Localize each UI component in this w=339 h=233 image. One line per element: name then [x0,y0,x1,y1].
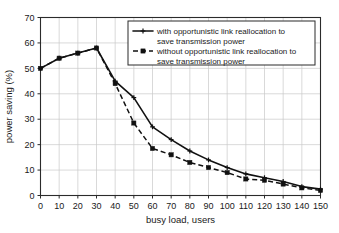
x-tick-label: 140 [294,201,309,211]
y-tick-label: 60 [24,38,34,48]
x-axis-title: busy load, users [146,214,215,225]
x-tick-label: 120 [257,201,272,211]
legend-entry-2-line-2: save transmission power [157,57,245,66]
x-tick-label: 70 [166,201,176,211]
x-tick-label: 130 [276,201,291,211]
legend-entry-2-line-1: without opportunistic link reallocation … [156,47,297,56]
y-tick-label: 70 [24,13,34,23]
x-tick-label: 80 [185,201,195,211]
data-point-marker [243,171,248,176]
x-tick-label: 10 [54,201,64,211]
series-with-reallocation-line [41,48,321,189]
chart-figure: 0102030405060708090100110120130140150 01… [0,0,339,233]
data-point-marker [150,146,154,150]
series-with-reallocation-markers [38,46,323,192]
data-point-marker [225,165,230,170]
y-tick-label: 0 [29,191,34,201]
y-tick-label: 50 [24,64,34,74]
x-tick-label: 150 [313,201,328,211]
y-tick-label: 10 [24,165,34,175]
x-tick-label: 0 [38,201,43,211]
data-point-marker [132,121,136,125]
x-tick-label: 110 [239,201,253,211]
data-point-marker [188,160,192,164]
data-point-marker [206,165,210,169]
data-point-marker [169,153,173,157]
chart-legend: with opportunistic link reallocation to … [128,21,315,66]
x-tick-label: 30 [91,201,101,211]
legend-entry-1-line-2: save transmission power [157,37,245,46]
y-tick-label: 30 [24,114,34,124]
x-tick-label: 50 [129,201,139,211]
power-saving-line-chart: 0102030405060708090100110120130140150 01… [0,0,339,233]
x-tick-label: 40 [110,201,120,211]
y-axis-title: power saving (%) [3,70,14,143]
y-tick-label: 40 [24,89,34,99]
x-tick-label: 20 [73,201,83,211]
legend-entry-1-line-1: with opportunistic link reallocation to [156,27,286,36]
x-tick-label: 100 [220,201,235,211]
y-tick-labels: 010203040506070 [24,13,34,201]
data-point-marker [244,177,248,181]
y-tick-label: 20 [24,140,34,150]
data-point-marker [225,171,229,175]
x-tick-label: 60 [147,201,157,211]
legend-square-marker-sample [141,49,145,53]
x-tick-label: 90 [203,201,213,211]
x-tick-labels: 0102030405060708090100110120130140150 [38,201,328,211]
